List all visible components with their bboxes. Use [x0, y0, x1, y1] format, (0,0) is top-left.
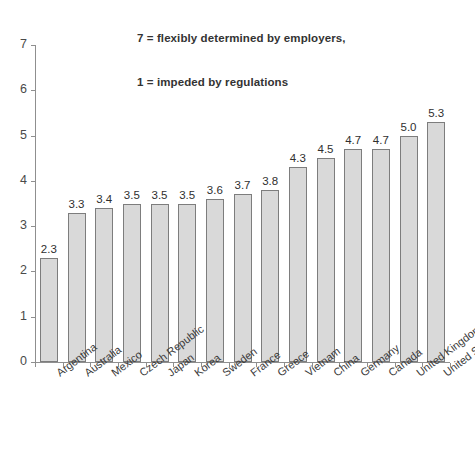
x-axis-category-label: Czech Republic — [137, 369, 144, 379]
y-tick-label: 3 — [20, 218, 27, 233]
x-axis-category-label: Sweden — [220, 369, 227, 379]
y-tick-label: 5 — [20, 128, 27, 143]
y-axis-tick: 1 — [0, 317, 35, 318]
x-axis-category-label: Argentina — [54, 369, 61, 379]
bar-value-label: 5.0 — [389, 121, 429, 134]
x-axis-category-label: United Kingdom — [414, 369, 421, 379]
x-axis-category-label: Canada — [386, 369, 393, 379]
x-axis-category-label: Vietnam — [303, 369, 310, 379]
bar — [40, 258, 58, 362]
y-tick-label: 1 — [20, 309, 27, 324]
bar — [206, 199, 224, 362]
y-tick-label: 0 — [20, 354, 27, 369]
y-axis-tick: 6 — [0, 90, 35, 91]
bar — [261, 190, 279, 362]
y-tick-mark — [31, 226, 35, 227]
bar — [234, 194, 252, 362]
bar — [427, 122, 445, 362]
x-axis-category-label: Japan — [165, 369, 172, 379]
y-axis-tick: 5 — [0, 136, 35, 137]
bar-value-label: 5.3 — [416, 107, 456, 120]
y-tick-label: 6 — [20, 82, 27, 97]
y-axis-tick: 3 — [0, 226, 35, 227]
x-axis-category-label: Mexico — [109, 369, 116, 379]
x-axis-category-label: Korea — [192, 369, 199, 379]
bar — [372, 149, 390, 362]
y-axis-tick: 0 — [0, 362, 35, 363]
bar — [289, 167, 307, 362]
y-axis-tick: 4 — [0, 181, 35, 182]
y-tick-mark — [31, 317, 35, 318]
bar — [151, 204, 169, 363]
x-axis-category-label: Australia — [82, 369, 89, 379]
y-axis-tick: 7 — [0, 45, 35, 46]
bar — [123, 204, 141, 363]
x-axis-category-label: Germany — [358, 369, 365, 379]
x-axis-category-label: Greece — [275, 369, 282, 379]
bar-value-label: 2.3 — [29, 243, 69, 256]
bar — [317, 158, 335, 362]
bar — [344, 149, 362, 362]
x-axis-category-label: United States — [441, 369, 448, 379]
y-tick-mark — [31, 181, 35, 182]
chart-title-line-2: 1 = impeded by regulations — [137, 75, 346, 90]
x-axis-category-label: China — [331, 369, 338, 379]
y-axis-tick: 2 — [0, 271, 35, 272]
bar — [400, 136, 418, 362]
bar-value-label: 4.7 — [361, 134, 401, 147]
y-tick-mark — [31, 271, 35, 272]
chart-title-line-1: 7 = flexibly determined by employers, — [137, 31, 346, 46]
bar-value-label: 3.8 — [250, 175, 290, 188]
y-tick-mark — [31, 45, 35, 46]
y-tick-label: 4 — [20, 173, 27, 188]
x-axis-category-label: France — [248, 369, 255, 379]
y-tick-label: 2 — [20, 263, 27, 278]
bar — [68, 213, 86, 362]
y-tick-label: 7 — [20, 37, 27, 52]
x-tick-mark — [35, 363, 36, 367]
y-tick-mark — [31, 90, 35, 91]
chart-title: 7 = flexibly determined by employers, 1 … — [137, 2, 346, 118]
y-axis-line — [35, 45, 36, 362]
bar-chart: 7 = flexibly determined by employers, 1 … — [0, 0, 475, 451]
bar — [95, 208, 113, 362]
y-tick-mark — [31, 136, 35, 137]
